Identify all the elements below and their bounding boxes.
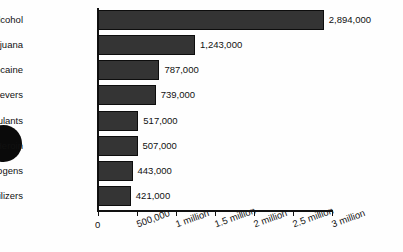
x-axis-tick-label: 3 million bbox=[330, 207, 367, 229]
category-label: Alcohol bbox=[0, 9, 23, 31]
category-label: Cocaine bbox=[0, 59, 23, 81]
x-axis-tick-label: 0 bbox=[95, 219, 100, 230]
bar-row: Hallucinogens443,000 bbox=[98, 160, 332, 185]
bar bbox=[98, 60, 159, 80]
bar-value-label: 739,000 bbox=[161, 86, 195, 104]
bar bbox=[98, 111, 138, 131]
bar bbox=[98, 10, 324, 30]
x-axis-tick bbox=[98, 210, 99, 216]
bar-row: Marijuana1,243,000 bbox=[98, 34, 332, 59]
bar-row: Tranquilizers421,000 bbox=[98, 185, 332, 210]
x-axis-tick bbox=[137, 210, 138, 216]
category-label: Stimulants bbox=[0, 110, 23, 132]
x-axis-tick bbox=[176, 210, 177, 216]
bar-value-label: 443,000 bbox=[138, 162, 172, 180]
plot-area: Alcohol2,894,000Marijuana1,243,000Cocain… bbox=[98, 9, 332, 210]
bar-row: Heroin507,000 bbox=[98, 135, 332, 160]
bar-chart: Alcohol2,894,000Marijuana1,243,000Cocain… bbox=[0, 0, 403, 252]
x-axis-tick bbox=[332, 210, 333, 216]
bar-row: Pain Relievers739,000 bbox=[98, 84, 332, 109]
bar-value-label: 517,000 bbox=[143, 112, 177, 130]
x-axis-tick bbox=[293, 210, 294, 216]
bar bbox=[98, 161, 133, 181]
bar-value-label: 507,000 bbox=[143, 137, 177, 155]
bar bbox=[98, 186, 131, 206]
category-label: Heroin bbox=[0, 135, 23, 157]
bar-value-label: 421,000 bbox=[136, 187, 170, 205]
bar bbox=[98, 136, 138, 156]
bar-row: Alcohol2,894,000 bbox=[98, 9, 332, 34]
bar-row: Cocaine787,000 bbox=[98, 59, 332, 84]
x-axis-tick bbox=[254, 210, 255, 216]
bar-value-label: 1,243,000 bbox=[200, 36, 242, 54]
bar-rows: Alcohol2,894,000Marijuana1,243,000Cocain… bbox=[98, 9, 332, 210]
category-label: Pain Relievers bbox=[0, 84, 23, 106]
category-label: Hallucinogens bbox=[0, 160, 23, 182]
bar-value-label: 787,000 bbox=[164, 61, 198, 79]
bar bbox=[98, 85, 156, 105]
bar-value-label: 2,894,000 bbox=[329, 11, 371, 29]
category-label: Marijuana bbox=[0, 34, 23, 56]
bar bbox=[98, 35, 195, 55]
x-axis-tick bbox=[215, 210, 216, 216]
bar-row: Stimulants517,000 bbox=[98, 110, 332, 135]
category-label: Tranquilizers bbox=[0, 185, 23, 207]
